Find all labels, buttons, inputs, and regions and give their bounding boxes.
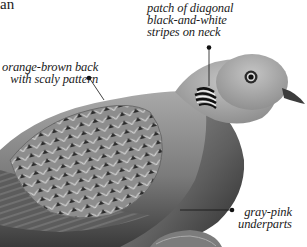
dove-beak (282, 88, 305, 104)
annotation-underparts: gray-pink underparts (238, 206, 292, 230)
dove-diagram: an (0, 0, 307, 247)
annotation-neck-stripes: patch of diagonal black-and-white stripe… (147, 2, 234, 38)
annotation-line: stripes on neck (147, 26, 234, 38)
annotation-back: orange-brown back with scaly pattern (2, 61, 98, 85)
annotation-line: with scaly pattern (2, 73, 98, 85)
annotation-line: underparts (238, 218, 292, 230)
